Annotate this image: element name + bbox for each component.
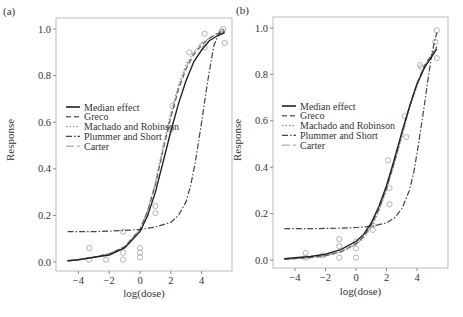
y-tick-label: 0.6 [255, 115, 268, 126]
y-tick-label: 0.6 [38, 117, 51, 128]
panel-label: (a) [3, 5, 16, 18]
y-tick-label: 0.4 [255, 162, 269, 173]
plot-frame [56, 18, 232, 271]
x-tick-label: 0 [353, 272, 358, 283]
series-line-greco [284, 47, 437, 260]
x-tick-label: −2 [320, 272, 331, 283]
data-point [120, 250, 125, 255]
data-point [202, 31, 207, 36]
series-line-median-effect [284, 49, 437, 259]
x-tick-label: −4 [73, 275, 85, 286]
data-point [337, 255, 342, 260]
data-point [385, 158, 390, 163]
data-point [337, 243, 342, 248]
y-tick-label: 1.0 [255, 23, 268, 34]
data-point [187, 50, 192, 55]
x-tick-label: 2 [384, 272, 389, 283]
data-point [353, 246, 358, 251]
x-tick-label: 2 [168, 275, 173, 286]
data-point [153, 203, 158, 208]
legend-entry: Carter [300, 140, 326, 151]
y-axis-label: Response [231, 119, 243, 161]
y-tick-label: 0.0 [255, 255, 268, 266]
data-point [353, 255, 358, 260]
y-tick-label: 0.2 [38, 210, 51, 221]
data-point [387, 202, 392, 207]
data-point [120, 257, 125, 262]
y-tick-label: 1.0 [38, 24, 51, 35]
panel-label: (b) [236, 4, 249, 17]
series-line-carter [284, 47, 437, 260]
x-tick-label: 4 [199, 275, 205, 286]
data-point [153, 210, 158, 215]
data-point [337, 237, 342, 242]
legend-entry: Carter [84, 141, 110, 152]
y-tick-label: 0.8 [38, 70, 51, 81]
y-tick-label: 0.2 [255, 208, 268, 219]
data-point [222, 40, 227, 45]
x-tick-label: 4 [414, 272, 420, 283]
x-tick-label: 0 [137, 275, 142, 286]
y-tick-label: 0.8 [255, 69, 268, 80]
x-tick-label: −4 [289, 272, 301, 283]
chart-figure: (a)0.00.20.40.60.81.0−4−2024log(dose)Res… [0, 0, 463, 317]
panel-a: (a)0.00.20.40.60.81.0−4−2024log(dose)Res… [3, 5, 232, 300]
y-tick-label: 0.0 [38, 257, 51, 268]
x-axis-label: log(dose) [340, 285, 382, 298]
panel-b: (b)0.00.20.40.60.81.0−4−2024log(dose)Res… [231, 4, 448, 298]
x-tick-label: −2 [104, 275, 115, 286]
x-axis-label: log(dose) [123, 287, 165, 300]
data-point [104, 257, 109, 262]
data-point [87, 245, 92, 250]
data-point [404, 134, 409, 139]
data-point [434, 28, 439, 33]
series-line-machado-and-robinson [284, 47, 437, 260]
data-point [434, 56, 439, 61]
y-axis-label: Response [4, 119, 16, 161]
data-point [120, 229, 125, 234]
data-point [387, 185, 392, 190]
y-tick-label: 0.4 [38, 163, 52, 174]
